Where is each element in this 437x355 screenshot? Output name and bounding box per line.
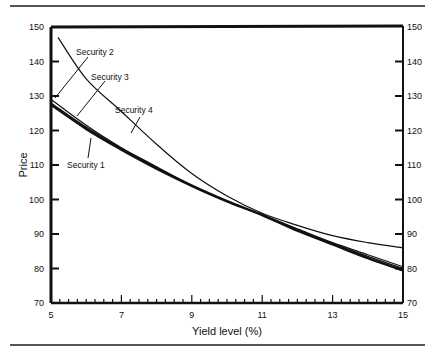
x-tick-label: 13 bbox=[328, 310, 338, 320]
y-tick-label: 150 bbox=[407, 22, 422, 32]
y-tick-label: 140 bbox=[29, 57, 44, 67]
y-tick-label: 140 bbox=[407, 57, 422, 67]
y-tick-label: 80 bbox=[407, 264, 417, 274]
curve-security-3 bbox=[51, 103, 403, 269]
y-tick-label: 150 bbox=[29, 22, 44, 32]
x-tick-label: 5 bbox=[48, 310, 53, 320]
right-y-labels: 70 80 90 100 110 120 130 140 150 bbox=[407, 22, 422, 308]
y-tick-label: 130 bbox=[29, 91, 44, 101]
label-security-1: Security 1 bbox=[67, 160, 105, 170]
y-tick-label: 110 bbox=[407, 160, 421, 170]
left-y-labels: 70 80 90 100 110 120 130 140 150 bbox=[29, 22, 44, 308]
y-tick-label: 80 bbox=[34, 264, 44, 274]
annotations: Security 2 Security 3 Security 4 Securit… bbox=[67, 47, 153, 170]
y-tick-label: 100 bbox=[407, 195, 422, 205]
x-tick-label: 9 bbox=[189, 310, 194, 320]
curve-security-1 bbox=[51, 105, 403, 271]
label-security-4: Security 4 bbox=[115, 105, 153, 115]
curve-security-2 bbox=[51, 99, 403, 266]
y-tick-label: 100 bbox=[29, 195, 44, 205]
y-tick-label: 70 bbox=[407, 298, 417, 308]
x-tick-label: 7 bbox=[119, 310, 124, 320]
y-axis-title: Price bbox=[17, 152, 29, 177]
price-yield-chart: 70 80 90 100 110 120 130 140 150 70 80 9… bbox=[0, 0, 437, 355]
label-security-3: Security 3 bbox=[91, 72, 129, 82]
y-tick-label: 90 bbox=[407, 229, 417, 239]
right-y-ticks bbox=[395, 62, 403, 269]
x-tick-label: 15 bbox=[398, 310, 408, 320]
y-tick-label: 120 bbox=[407, 126, 422, 136]
label-security-2: Security 2 bbox=[76, 47, 114, 57]
x-axis-title: Yield level (%) bbox=[192, 325, 262, 337]
y-tick-label: 130 bbox=[407, 91, 422, 101]
y-tick-label: 70 bbox=[34, 298, 44, 308]
x-tick-label: 11 bbox=[258, 310, 267, 320]
x-tick-labels: 5 7 9 11 13 15 bbox=[48, 310, 408, 320]
y-tick-label: 110 bbox=[30, 160, 44, 170]
y-tick-label: 120 bbox=[29, 126, 44, 136]
y-tick-label: 90 bbox=[34, 229, 44, 239]
